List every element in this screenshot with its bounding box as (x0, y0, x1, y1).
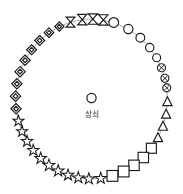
triangle-icon (162, 109, 171, 118)
formation-canvas: 상쇠 (0, 0, 183, 194)
star-icon (83, 173, 94, 184)
star-icon (21, 135, 32, 146)
star-icon (95, 172, 106, 183)
nested-diamond-icon (11, 104, 21, 114)
nested-diamond-icon (15, 66, 25, 76)
formation-diagram: 상쇠 (0, 0, 183, 194)
circle-icon (136, 33, 145, 42)
square-icon (107, 171, 118, 182)
circle-icon (146, 43, 154, 51)
circle-icon (153, 54, 161, 62)
nested-diamond-icon (55, 22, 64, 31)
circle-icon (87, 93, 96, 102)
circle-icon (109, 18, 119, 28)
star-icon (13, 115, 24, 125)
center-marker: 상쇠 (85, 93, 99, 119)
center-label: 상쇠 (85, 109, 99, 119)
circled-x-icon (157, 64, 165, 72)
square-icon (118, 166, 129, 177)
triangle-icon (158, 121, 167, 130)
triangle-icon (163, 97, 172, 106)
nested-diamond-icon (12, 79, 22, 89)
nested-diamond-icon (44, 28, 54, 38)
nested-diamond-icon (20, 55, 30, 65)
star-icon (62, 169, 73, 180)
star-icon (52, 165, 64, 176)
bowtie-icon (66, 17, 75, 27)
circled-x-icon (163, 84, 171, 92)
circle-icon (124, 24, 133, 33)
square-icon (129, 160, 139, 170)
triangle-icon (153, 133, 162, 142)
star-icon (17, 126, 28, 136)
circled-x-icon (161, 74, 169, 82)
nested-diamond-icon (10, 91, 20, 101)
star-icon (28, 144, 39, 155)
